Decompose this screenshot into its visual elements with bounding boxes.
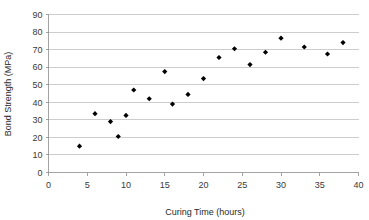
- data-point: [131, 87, 136, 92]
- x-tick-label-15: 15: [160, 180, 170, 190]
- data-point: [247, 62, 252, 67]
- data-point: [77, 144, 82, 149]
- data-point: [92, 111, 97, 116]
- data-point: [116, 134, 121, 139]
- data-point: [123, 113, 128, 118]
- y-tick-label-30: 30: [32, 115, 42, 125]
- plot-area: 0510152025303540 0102030405060708090 Cur…: [0, 0, 369, 220]
- x-tick-label-30: 30: [276, 180, 286, 190]
- y-tick-label-50: 50: [32, 80, 42, 90]
- y-tick-label-20: 20: [32, 133, 42, 143]
- y-axis-ticks: 0102030405060708090: [32, 10, 48, 178]
- data-point: [147, 96, 152, 101]
- x-axis-title: Curing Time (hours): [165, 207, 245, 217]
- y-tick-label-80: 80: [32, 27, 42, 37]
- y-tick-label-60: 60: [32, 62, 42, 72]
- data-point: [263, 50, 268, 55]
- data-point: [340, 40, 345, 45]
- y-tick-label-10: 10: [32, 150, 42, 160]
- data-point: [278, 36, 283, 41]
- data-point: [201, 76, 206, 81]
- axes: [49, 15, 359, 173]
- data-point: [302, 44, 307, 49]
- x-tick-label-35: 35: [315, 180, 325, 190]
- x-tick-label-10: 10: [121, 180, 131, 190]
- data-point: [185, 92, 190, 97]
- x-tick-label-5: 5: [85, 180, 90, 190]
- scatter-chart: 0510152025303540 0102030405060708090 Cur…: [0, 0, 369, 220]
- gridlines: [49, 15, 359, 155]
- y-tick-label-70: 70: [32, 45, 42, 55]
- data-point: [325, 51, 330, 56]
- data-point: [162, 69, 167, 74]
- x-tick-label-25: 25: [237, 180, 247, 190]
- y-tick-label-40: 40: [32, 98, 42, 108]
- x-tick-label-0: 0: [46, 180, 51, 190]
- y-axis-title: Bond Strength (MPa): [3, 52, 13, 137]
- data-point: [216, 55, 221, 60]
- y-tick-label-0: 0: [37, 168, 42, 178]
- y-tick-label-90: 90: [32, 10, 42, 20]
- data-points: [77, 36, 346, 149]
- x-axis-ticks: 0510152025303540: [46, 173, 364, 190]
- x-tick-label-20: 20: [198, 180, 208, 190]
- data-point: [232, 46, 237, 51]
- x-tick-label-40: 40: [353, 180, 363, 190]
